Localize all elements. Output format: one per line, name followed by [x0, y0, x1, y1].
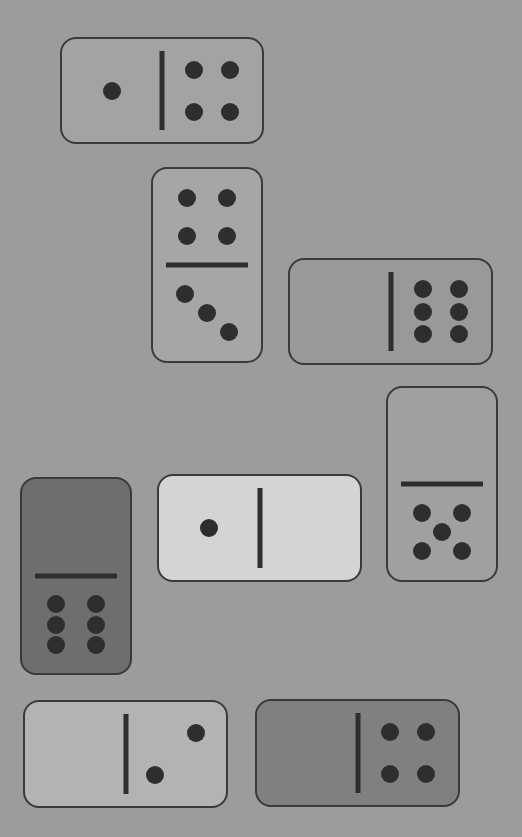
pip: [417, 765, 435, 783]
domino-0-4[interactable]: [255, 699, 460, 807]
domino-0-2[interactable]: [23, 700, 228, 808]
domino-0-6[interactable]: [288, 258, 493, 365]
pip: [198, 304, 216, 322]
domino-0-6[interactable]: [20, 477, 132, 675]
domino-1-4[interactable]: [60, 37, 264, 144]
divider-bar: [401, 482, 483, 487]
divider-bar: [355, 713, 360, 792]
pip: [414, 303, 432, 321]
pip: [413, 542, 431, 560]
divider-bar: [166, 263, 248, 268]
pip: [146, 766, 164, 784]
pip: [220, 323, 238, 341]
pip: [417, 723, 435, 741]
pip: [87, 636, 105, 654]
domino-4-3[interactable]: [151, 167, 263, 363]
pip: [87, 616, 105, 634]
pip: [178, 227, 196, 245]
pip: [450, 280, 468, 298]
pip: [381, 765, 399, 783]
divider-bar: [160, 51, 165, 129]
pip: [187, 724, 205, 742]
divider-bar: [123, 714, 128, 793]
pip: [47, 595, 65, 613]
divider-bar: [35, 574, 117, 579]
pip: [185, 103, 203, 121]
pip: [47, 616, 65, 634]
pip: [450, 303, 468, 321]
pip: [221, 61, 239, 79]
pip: [414, 325, 432, 343]
pip: [433, 523, 451, 541]
pip: [47, 636, 65, 654]
pip: [200, 519, 218, 537]
pip: [218, 227, 236, 245]
pip: [87, 595, 105, 613]
pip: [413, 504, 431, 522]
pip: [221, 103, 239, 121]
pip: [450, 325, 468, 343]
pip: [185, 61, 203, 79]
pip: [218, 189, 236, 207]
pip: [453, 542, 471, 560]
pip: [414, 280, 432, 298]
pip: [381, 723, 399, 741]
divider-bar: [257, 488, 262, 567]
pip: [178, 189, 196, 207]
pip: [103, 82, 121, 100]
divider-bar: [388, 272, 393, 350]
pip: [176, 285, 194, 303]
domino-0-5[interactable]: [386, 386, 498, 582]
domino-1-0[interactable]: [157, 474, 362, 582]
pip: [453, 504, 471, 522]
